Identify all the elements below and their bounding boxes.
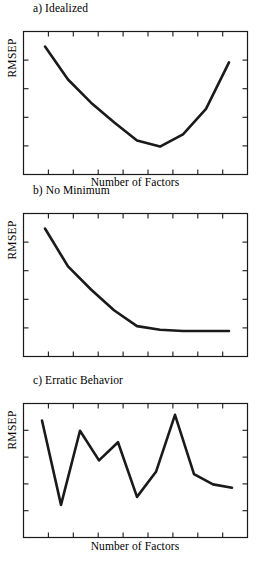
panel-c-data-line [42,415,232,505]
panel-a-chart-svg [0,0,266,176]
panel-b-ticks-bottom [48,352,222,357]
figure-rmsep-panels: a) Idealized [0,0,266,571]
panel-c-ticks-right [243,430,248,510]
panel-a-ticks-right [243,60,248,146]
panel-c-plot-area: RMSEP Number of Factors [0,372,266,571]
panel-b-frame [24,214,248,357]
panel-a-ticks-bottom [48,170,222,175]
panel-c-ticks-bottom [48,533,222,538]
panel-a-ticks-top [48,32,222,37]
panel-b-no-minimum: b) No Minimum [0,182,266,376]
panel-b-data-line [45,229,229,332]
panel-b-ticks-right [243,242,248,328]
panel-c-ylabel: RMSEP [6,394,18,466]
panel-b-plot-area: RMSEP Number of Factors [0,182,266,376]
panel-a-frame [24,32,248,175]
panel-a-idealized: a) Idealized [0,0,266,194]
panel-c-chart-svg [0,372,266,553]
panel-a-ticks-left [24,60,29,146]
panel-a-ylabel: RMSEP [6,22,18,94]
panel-a-data-line [45,47,229,147]
panel-c-ticks-top [48,404,222,409]
panel-b-ticks-top [48,214,222,219]
panel-b-ylabel: RMSEP [6,204,18,276]
panel-b-chart-svg [0,182,266,358]
panel-b-ticks-left [24,242,29,328]
panel-c-ticks-left [24,430,29,510]
panel-a-plot-area: RMSEP Number of Factors [0,0,266,194]
panel-c-erratic-behavior: c) Erratic Behavior [0,372,266,571]
panel-c-frame [24,404,248,538]
